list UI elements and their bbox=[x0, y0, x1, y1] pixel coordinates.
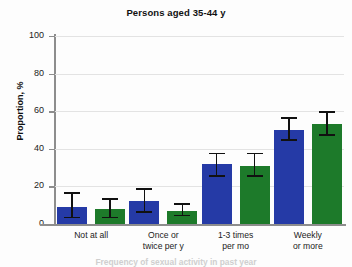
bar bbox=[202, 164, 232, 224]
error-bar-cap-top bbox=[136, 188, 152, 190]
y-tick-label-100: 100 bbox=[0, 30, 44, 40]
error-bar-cap-top bbox=[102, 198, 118, 200]
x-category-label-line: Weekly bbox=[262, 230, 352, 241]
bar-group bbox=[57, 36, 125, 224]
chart-figure: Persons aged 35-44 y Proportion, % 20406… bbox=[0, 0, 352, 267]
bar bbox=[312, 124, 342, 224]
error-bar-cap-top bbox=[281, 117, 297, 119]
x-axis-line bbox=[40, 224, 346, 226]
bar-group bbox=[202, 36, 270, 224]
y-tick-label-20: 20 bbox=[0, 180, 44, 190]
y-tick-label-60: 60 bbox=[0, 105, 44, 115]
error-bar-cap-top bbox=[209, 153, 225, 155]
bar bbox=[95, 209, 125, 224]
error-bar-cap-top bbox=[174, 203, 190, 205]
y-tick-label-0: 0 bbox=[0, 218, 44, 228]
error-bar-cap-top bbox=[64, 192, 80, 194]
x-axis-label: Frequency of sexual activity in past yea… bbox=[0, 257, 352, 267]
x-category-label-line: or more bbox=[262, 241, 352, 252]
error-bar-cap-top bbox=[319, 111, 335, 113]
bar bbox=[129, 201, 159, 224]
y-tick-label-40: 40 bbox=[0, 143, 44, 153]
bar-group bbox=[129, 36, 197, 224]
x-category-label: Weeklyor more bbox=[262, 230, 352, 252]
error-bar-cap-top bbox=[247, 153, 263, 155]
bar bbox=[57, 207, 87, 224]
bar-group bbox=[274, 36, 342, 224]
plot-area bbox=[55, 36, 344, 224]
bar bbox=[167, 211, 197, 224]
chart-title: Persons aged 35-44 y bbox=[0, 7, 352, 18]
y-tick-label-80: 80 bbox=[0, 68, 44, 78]
bar bbox=[274, 130, 304, 224]
bar bbox=[240, 166, 270, 224]
